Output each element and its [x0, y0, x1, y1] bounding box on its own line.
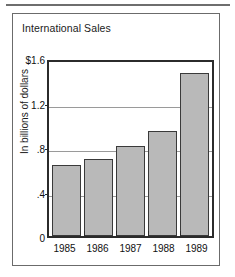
- bar-slot: [84, 62, 113, 236]
- bar-slot: [52, 62, 81, 236]
- x-axis-tick-label: 1989: [182, 243, 211, 254]
- bar-series: [49, 62, 212, 236]
- x-axis-tick-mark: [148, 231, 149, 236]
- y-axis-tick-label: .4: [37, 188, 45, 199]
- bar-1987[interactable]: [116, 146, 145, 236]
- x-axis-tick-mark: [180, 231, 181, 236]
- bar-slot: [116, 62, 145, 236]
- x-axis-tick-labels: 1985 1986 1987 1988 1989: [47, 243, 214, 254]
- y-axis-tick-label: 1.2: [31, 99, 45, 110]
- bar-slot: [180, 62, 209, 236]
- y-axis-tick-label: $1.6: [26, 55, 45, 66]
- y-axis-tick-label: .8: [37, 144, 45, 155]
- x-axis-tick-label: 1985: [50, 243, 79, 254]
- y-axis-tick-labels: $1.6 1.2 .8 .4 0: [12, 60, 45, 238]
- bar-slot: [148, 62, 177, 236]
- x-axis-tick-mark: [84, 231, 85, 236]
- chart-figure: International Sales In billions of dolla…: [0, 0, 235, 277]
- bar-1988[interactable]: [148, 131, 177, 236]
- x-axis-tick-mark: [116, 231, 117, 236]
- x-axis-tick-label: 1987: [116, 243, 145, 254]
- bar-1989[interactable]: [180, 73, 209, 236]
- plot-area: [47, 60, 214, 238]
- x-axis-tick-label: 1986: [83, 243, 112, 254]
- x-axis-tick-label: 1988: [149, 243, 178, 254]
- bar-1986[interactable]: [84, 159, 113, 236]
- top-divider-rule: [6, 4, 230, 6]
- chart-title: International Sales: [22, 22, 111, 34]
- y-axis-tick-label: 0: [39, 233, 45, 244]
- bar-1985[interactable]: [52, 165, 81, 236]
